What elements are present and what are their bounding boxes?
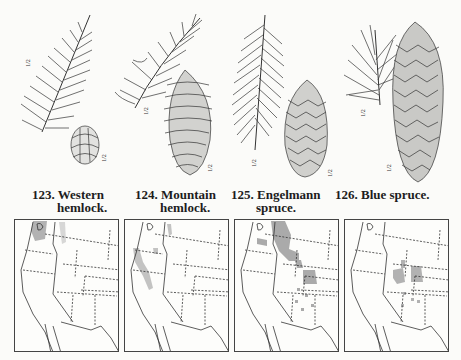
range-map-blue-spruce <box>344 219 449 352</box>
western-us-map-icon <box>15 220 119 352</box>
caption-line2: hemlock. <box>135 201 216 214</box>
hemlock-cone-icon <box>71 126 99 164</box>
range-shading <box>133 224 172 290</box>
scale-label: 1/2 <box>25 59 31 67</box>
tree-illustrations <box>0 0 461 185</box>
range-shading <box>393 260 423 307</box>
scale-label: 1/2 <box>251 159 257 167</box>
spruce-cone-icon <box>393 22 444 182</box>
range-map-engelmann-spruce <box>234 219 339 352</box>
scale-label: 1/2 <box>327 169 333 177</box>
caption-blue-spruce: 126. Blue spruce. <box>335 188 430 201</box>
caption-line2: hemlock. <box>32 201 107 214</box>
range-shading <box>31 221 66 244</box>
caption-line2: spruce. <box>231 201 321 214</box>
western-us-map-icon <box>345 220 449 352</box>
spruce-branch-icon <box>232 15 284 150</box>
scale-label: 1/2 <box>386 164 392 172</box>
scale-label: 1/2 <box>101 154 107 162</box>
range-map-mountain-hemlock <box>124 219 229 352</box>
western-us-map-icon <box>235 220 339 352</box>
scale-label: 1/2 <box>143 107 149 115</box>
western-us-map-icon <box>125 220 229 352</box>
scale-label: 1/2 <box>360 109 366 117</box>
scale-label: 1/2 <box>207 164 213 172</box>
figure-number: 126. <box>335 188 358 201</box>
spruce-cone-icon <box>285 80 328 177</box>
hemlock-cone-icon <box>164 70 212 175</box>
hemlock-branch-icon <box>21 15 92 132</box>
caption-mountain-hemlock: 124. Mountain hemlock. <box>135 188 216 214</box>
caption-engelmann-spruce: 125. Engelmann spruce. <box>231 188 321 214</box>
range-map-western-hemlock <box>14 219 119 352</box>
figure-number: 123. <box>32 188 55 201</box>
figure-number: 125. <box>231 188 254 201</box>
figure-number: 124. <box>135 188 158 201</box>
caption-line1: Blue spruce. <box>361 187 430 202</box>
caption-western-hemlock: 123. Western hemlock. <box>32 188 107 214</box>
